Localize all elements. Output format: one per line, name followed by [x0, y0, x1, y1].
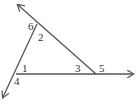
angle-label-2: 2	[38, 31, 44, 43]
angle-label-6: 5	[99, 62, 105, 74]
diagram-canvas: 6 2 1 4 3 5	[0, 0, 140, 104]
angle-label-5: 6	[28, 20, 34, 32]
angle-label-3: 3	[75, 62, 81, 74]
angle-label-1: 1	[22, 62, 28, 74]
line-top-bottomleft	[3, 24, 37, 97]
angle-label-4: 4	[14, 75, 20, 87]
triangle-diagram: 6 2 1 4 3 5	[0, 0, 140, 104]
